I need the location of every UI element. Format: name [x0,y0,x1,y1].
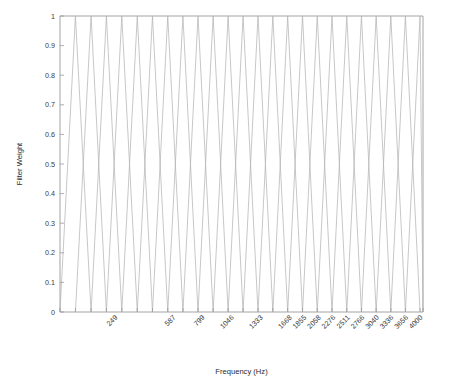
x-tick-label: 4000 [407,313,425,331]
filter-triangle [405,16,423,312]
filter-triangle [258,16,288,312]
filter-triangle [391,16,420,312]
filter-triangle [332,16,361,312]
filter-triangle [376,16,405,312]
y-tick-label: 0 [51,308,55,317]
y-tick-label: 0.8 [45,71,55,80]
filter-triangle [75,16,106,312]
filter-triangle [361,16,390,312]
x-tick-label: 2511 [334,313,351,330]
x-tick-label: 587 [163,313,178,328]
x-tick-label: 2276 [320,313,338,331]
filter-triangle [122,16,153,312]
filter-triangle [137,16,167,312]
y-tick-label: 0.7 [45,100,55,109]
y-tick-label: 0.3 [45,219,55,228]
filter-triangle [168,16,198,312]
filter-triangle [152,16,182,312]
filter-triangle [91,16,122,312]
x-tick-label: 3656 [392,313,410,331]
x-tick-label: 3040 [363,313,381,331]
x-tick-label: 2766 [349,313,367,331]
mel-filterbank-chart: 00.10.20.30.40.50.60.70.80.9124958779910… [0,0,450,385]
filter-triangle [60,16,91,312]
x-tick-label: 799 [192,313,207,328]
y-tick-label: 0.6 [45,130,55,139]
x-tick-label: 1046 [218,313,236,331]
x-tick-label: 3336 [378,313,396,331]
x-tick-label: 2058 [305,313,323,331]
filter-triangle [243,16,273,312]
filter-triangle [198,16,228,312]
filter-triangle [273,16,303,312]
x-tick-label: 1668 [276,313,294,331]
x-tick-label: 249 [105,313,120,328]
filter-triangle [106,16,137,312]
y-tick-label: 0.5 [45,160,55,169]
y-tick-label: 0.2 [45,248,55,257]
x-tick-label: 1333 [247,313,265,331]
y-tick-label: 0.1 [45,278,55,287]
x-axis-title: Frequency (Hz) [215,367,268,376]
filter-triangle [213,16,243,312]
filter-triangle [317,16,347,312]
y-tick-label: 0.9 [45,41,55,50]
filter-triangle [303,16,332,312]
x-tick-label: 1855 [291,313,309,331]
filter-triangle [183,16,213,312]
filter-triangle [347,16,376,312]
y-tick-label: 1 [51,12,55,21]
filter-triangle [228,16,258,312]
chart-svg: 00.10.20.30.40.50.60.70.80.9124958779910… [0,0,450,385]
y-axis-title: Filter Weight [15,142,24,185]
y-tick-label: 0.4 [45,189,55,198]
filter-series [60,16,423,312]
filter-triangle [288,16,318,312]
